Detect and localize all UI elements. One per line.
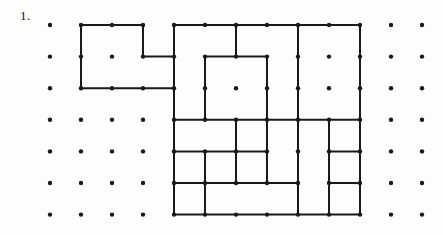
grid-dot [420,54,424,58]
grid-dot [234,149,238,153]
grid-dot [265,23,269,27]
grid-dot [420,181,424,185]
grid-dot [203,86,207,90]
grid-dot [79,149,83,153]
grid-dot [327,118,331,122]
grid-dot [420,23,424,27]
grid-dot [110,118,114,122]
grid-dot [327,86,331,90]
grid-dot [265,86,269,90]
grid-dot [203,54,207,58]
grid-dot [296,54,300,58]
small-l-shape [81,25,174,88]
grid-dot [296,86,300,90]
grid-dot [110,23,114,27]
grid-dot [110,86,114,90]
grid-dot [389,86,393,90]
grid-dot [172,149,176,153]
grid-dot [358,23,362,27]
grid-dot [327,212,331,216]
grid-dot [48,23,52,27]
grid-dot [296,181,300,185]
grid-dot [358,149,362,153]
grid-dot [172,86,176,90]
grid-dot [141,149,145,153]
grid-dot [141,86,145,90]
grid-dot [203,212,207,216]
grid-dot [358,54,362,58]
grid-dot [327,23,331,27]
grid-dot [203,149,207,153]
grid-dot [389,23,393,27]
small-l-shape-outline [81,25,174,88]
grid-dot [358,86,362,90]
grid-dot [358,118,362,122]
grid-dot [141,23,145,27]
grid-dot [110,212,114,216]
grid-dot [79,181,83,185]
grid-dot [420,149,424,153]
grid-dot [141,181,145,185]
grid-dot [327,181,331,185]
grid-dot [389,54,393,58]
grid-dot [203,118,207,122]
grid-dot [420,118,424,122]
grid-dot [110,149,114,153]
grid-dot [296,118,300,122]
grid-dot [203,181,207,185]
grid-dot [172,181,176,185]
shape-outline-layer [81,25,360,215]
grid-dot [296,149,300,153]
grid-dot [48,212,52,216]
grid-dot [358,212,362,216]
grid-dot [420,86,424,90]
grid-dot [389,149,393,153]
grid-dot [141,118,145,122]
grid-dot [296,212,300,216]
grid-dot [79,212,83,216]
grid-dot [110,181,114,185]
grid-dot [141,212,145,216]
grid-dot [234,23,238,27]
grid-dot [234,54,238,58]
grid-dot [265,212,269,216]
grid-dot [79,23,83,27]
grid-dot [234,212,238,216]
grid-dot [327,54,331,58]
grid-dot [48,118,52,122]
grid-dot [172,118,176,122]
grid-dot [389,118,393,122]
grid-dot [172,23,176,27]
grid-dot [234,181,238,185]
grid-dot [141,54,145,58]
grid-dot [358,181,362,185]
dot-grid-figure [0,0,443,235]
grid-dot [234,118,238,122]
grid-dot [203,23,207,27]
grid-dot [265,54,269,58]
grid-dot [327,149,331,153]
grid-dot [265,181,269,185]
grid-dot [48,54,52,58]
grid-dot [79,118,83,122]
grid-dot [48,181,52,185]
grid-dot [79,86,83,90]
grid-dot [389,212,393,216]
grid-dot [265,149,269,153]
grid-dot [110,54,114,58]
grid-dot [265,118,269,122]
puzzle-canvas: 1. [0,0,443,235]
grid-dot [296,23,300,27]
grid-dot [234,86,238,90]
grid-dot [48,149,52,153]
grid-dot [48,86,52,90]
grid-dot [172,54,176,58]
grid-dot [389,181,393,185]
grid-dot [79,54,83,58]
grid-dot [172,212,176,216]
grid-dot [420,212,424,216]
